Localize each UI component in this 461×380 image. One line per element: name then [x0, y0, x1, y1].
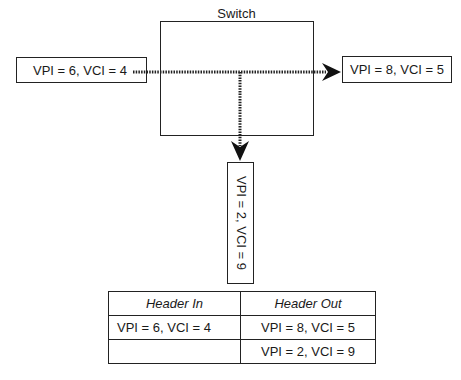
table-row: VPI = 2, VCI = 9: [109, 340, 376, 364]
table-header-row: Header In Header Out: [109, 292, 376, 316]
header-in: Header In: [109, 292, 241, 316]
table-cell: [109, 340, 241, 364]
table-cell: VPI = 6, VCI = 4: [109, 316, 241, 340]
table-cell: VPI = 8, VCI = 5: [241, 316, 376, 340]
switching-table: Header In Header Out VPI = 6, VCI = 4 VP…: [108, 291, 376, 364]
table-row: VPI = 6, VCI = 4 VPI = 8, VCI = 5: [109, 316, 376, 340]
arrowhead-down-icon: [231, 141, 249, 161]
header-out: Header Out: [241, 292, 376, 316]
table-cell: VPI = 2, VCI = 9: [241, 340, 376, 364]
